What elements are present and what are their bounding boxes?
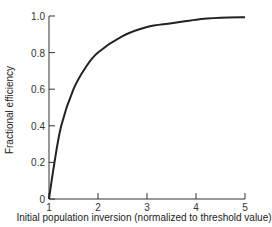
y-tick-label: 0.8 [31, 48, 45, 59]
y-tick-label: 0.2 [31, 157, 45, 168]
efficiency-curve [49, 17, 245, 199]
y-tick-label: 0.4 [31, 121, 45, 132]
y-tick-label: 0 [39, 194, 45, 205]
x-axis-title: Initial population inversion (normalized… [16, 212, 271, 223]
axes: 00.20.40.60.81.012345 [31, 11, 248, 213]
y-axis-title: Fractional efficiency [4, 66, 15, 154]
efficiency-chart: 00.20.40.60.81.012345 Fractional efficie… [0, 0, 272, 227]
y-tick-label: 0.6 [31, 84, 45, 95]
y-tick-label: 1.0 [31, 11, 45, 22]
